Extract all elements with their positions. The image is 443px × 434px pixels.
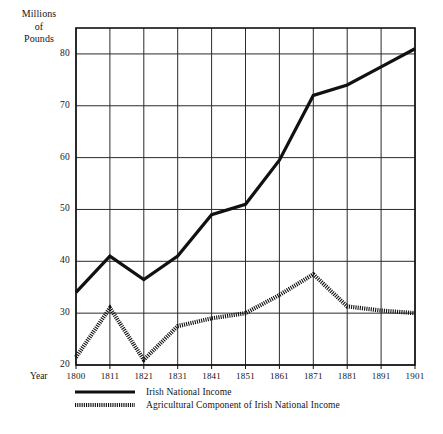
x-axis-tick-label: 1811 xyxy=(92,371,128,381)
solid-line-swatch xyxy=(74,386,136,398)
hatched-line-swatch xyxy=(74,399,136,411)
y-axis-tick-label: 80 xyxy=(30,48,70,58)
x-axis-tick-label: 1800 xyxy=(58,371,94,381)
legend-item-irish-national-income: Irish National Income xyxy=(74,385,434,398)
y-axis-tick-label: 50 xyxy=(30,203,70,213)
x-axis-tick-label: 1841 xyxy=(194,371,230,381)
x-axis-tick-label: 1901 xyxy=(397,371,433,381)
legend-label-0: Irish National Income xyxy=(146,387,231,397)
y-axis-tick-label: 70 xyxy=(30,100,70,110)
legend-label-1: Agricultural Component of Irish National… xyxy=(146,400,340,410)
y-axis-tick-label: 30 xyxy=(30,307,70,317)
x-axis-tick-label: 1851 xyxy=(228,371,264,381)
chart-figure: Millions of Pounds 20304050607080 180018… xyxy=(0,0,443,434)
x-axis-tick-label: 1821 xyxy=(126,371,162,381)
y-axis-title-line-2: of xyxy=(6,21,72,34)
y-axis-tick-label: 40 xyxy=(30,255,70,265)
x-axis-tick-label: 1881 xyxy=(329,371,365,381)
y-axis-tick-label: 60 xyxy=(30,152,70,162)
legend-item-agricultural-component: Agricultural Component of Irish National… xyxy=(74,398,434,411)
x-axis-tick-label: 1891 xyxy=(363,371,399,381)
y-axis-title: Millions of Pounds xyxy=(6,8,72,46)
x-axis-tick-label: 1861 xyxy=(261,371,297,381)
y-axis-tick-label: 20 xyxy=(30,359,70,369)
chart-legend: Irish National Income Agricultural Compo… xyxy=(74,385,434,411)
x-axis-title: Year xyxy=(30,371,48,381)
x-axis-tick-label: 1871 xyxy=(295,371,331,381)
y-axis-title-line-3: Pounds xyxy=(6,33,72,46)
y-axis-title-line-1: Millions xyxy=(6,8,72,21)
x-axis-tick-label: 1831 xyxy=(160,371,196,381)
